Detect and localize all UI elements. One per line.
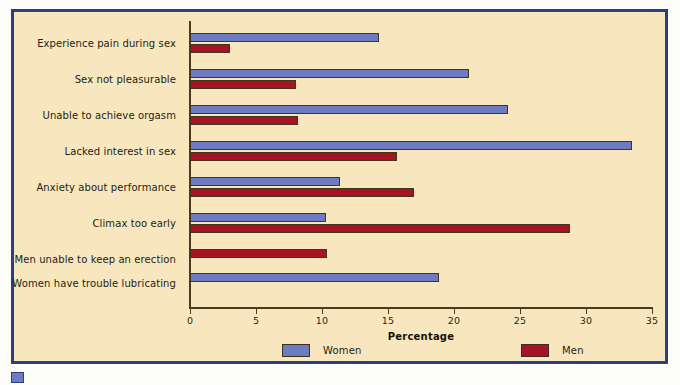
bar-women-2: [190, 105, 508, 114]
bar-men-6: [190, 249, 327, 258]
x-tick-6: [586, 309, 587, 314]
x-axis-title: Percentage: [189, 331, 653, 342]
x-tick-label-5: 25: [514, 315, 527, 326]
y-axis-line: [189, 21, 191, 309]
category-label-sex-not-pleasurable: Sex not pleasurable: [75, 74, 176, 85]
legend-swatch-men-icon: [521, 344, 549, 357]
x-tick-1: [256, 309, 257, 314]
bar-women-5: [190, 213, 326, 222]
x-tick-3: [388, 309, 389, 314]
category-label-lacked-interest-in-sex: Lacked interest in sex: [65, 146, 176, 157]
figure-canvas: Experience pain during sex Sex not pleas…: [14, 12, 665, 361]
chart-legend: Women Men: [14, 344, 665, 366]
bar-women-0: [190, 33, 379, 42]
category-label-unable-to-achieve-orgasm: Unable to achieve orgasm: [43, 110, 176, 121]
x-tick-5: [520, 309, 521, 314]
bar-women-7: [190, 273, 439, 282]
bar-women-4: [190, 177, 340, 186]
x-axis-line: [189, 307, 653, 309]
category-label-experience-pain-during-sex: Experience pain during sex: [37, 38, 176, 49]
x-tick-label-1: 5: [253, 315, 259, 326]
category-label-climax-too-early: Climax too early: [92, 218, 176, 229]
x-tick-label-7: 35: [646, 315, 659, 326]
bar-men-5: [190, 224, 570, 233]
x-tick-label-3: 15: [382, 315, 395, 326]
x-tick-2: [322, 309, 323, 314]
bar-men-0: [190, 44, 230, 53]
x-tick-4: [454, 309, 455, 314]
legend-item-women: Women: [282, 344, 362, 357]
x-tick-0: [190, 309, 191, 314]
legend-label-women: Women: [323, 345, 362, 356]
bar-men-2: [190, 116, 298, 125]
x-tick-label-4: 20: [448, 315, 461, 326]
plot-area: 0 5 10 15 20 25 30 35 Percentage: [189, 21, 657, 309]
figure-frame: Experience pain during sex Sex not pleas…: [11, 9, 668, 364]
category-label-anxiety-about-performance: Anxiety about performance: [36, 182, 176, 193]
corner-marker-icon: [11, 372, 24, 383]
bar-men-3: [190, 152, 397, 161]
bar-men-4: [190, 188, 414, 197]
category-label-men-unable-to-keep-an-erection: Men unable to keep an erection: [14, 254, 176, 265]
category-label-women-have-trouble-lubricating: Women have trouble lubricating: [12, 278, 176, 289]
bar-women-3: [190, 141, 632, 150]
chart-figure: Experience pain during sex Sex not pleas…: [0, 0, 680, 385]
legend-swatch-women-icon: [282, 344, 310, 357]
category-labels: Experience pain during sex Sex not pleas…: [14, 21, 184, 309]
legend-label-men: Men: [562, 345, 584, 356]
legend-item-men: Men: [521, 344, 584, 357]
bar-women-1: [190, 69, 469, 78]
x-tick-7: [652, 309, 653, 314]
x-tick-label-0: 0: [187, 315, 193, 326]
x-tick-label-6: 30: [580, 315, 593, 326]
bar-men-1: [190, 80, 296, 89]
x-tick-label-2: 10: [316, 315, 329, 326]
